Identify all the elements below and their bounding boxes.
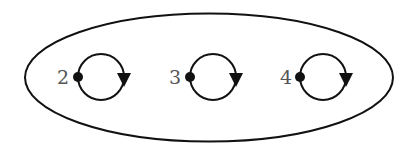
diagram-canvas: 2 3 4 xyxy=(0,0,414,149)
state-dot xyxy=(185,72,195,82)
state-dot xyxy=(73,72,83,82)
self-loop xyxy=(78,54,124,100)
state-3: 3 xyxy=(169,54,236,100)
self-loop xyxy=(300,54,346,100)
state-4: 4 xyxy=(280,54,346,100)
state-label: 3 xyxy=(169,66,181,88)
state-dot xyxy=(295,72,305,82)
state-label: 2 xyxy=(57,66,69,88)
self-loop xyxy=(190,54,236,100)
state-label: 4 xyxy=(280,66,292,88)
state-2: 2 xyxy=(57,54,124,100)
